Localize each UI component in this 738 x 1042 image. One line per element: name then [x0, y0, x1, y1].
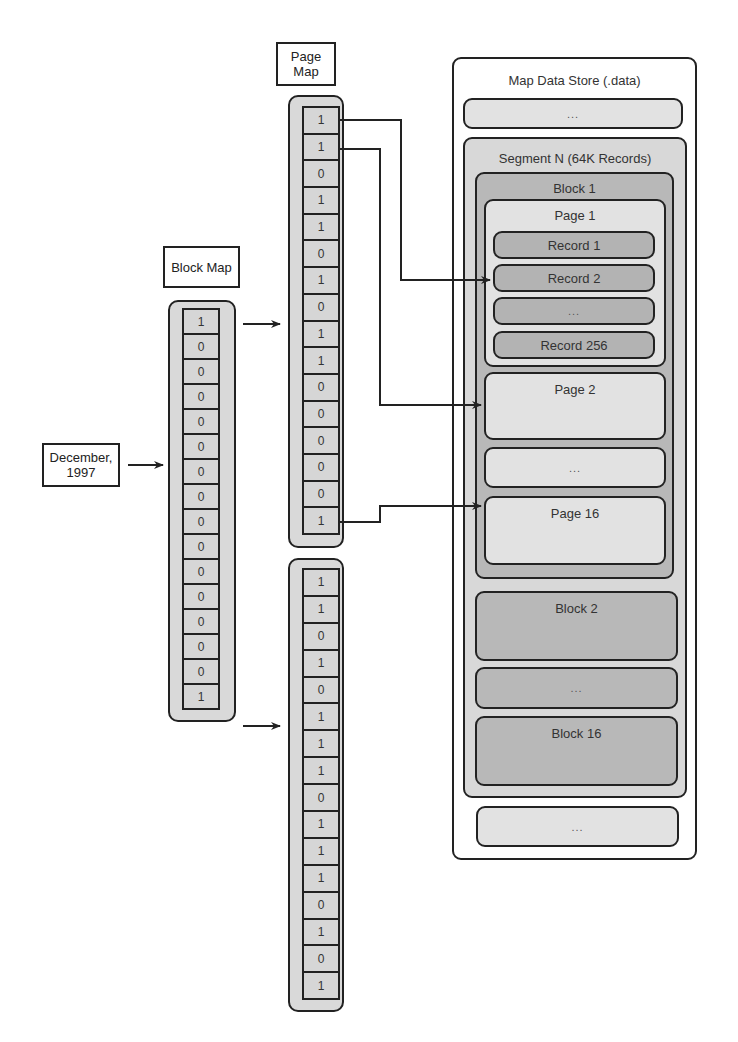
bit-cell: 1: [302, 346, 340, 375]
page-map-label: Page Map: [276, 42, 336, 86]
bit-cell: 0: [182, 458, 220, 485]
bit-cell: 0: [302, 373, 340, 402]
bit-cell: 0: [182, 508, 220, 535]
bit-cell: 0: [302, 400, 340, 429]
date-label: December, 1997: [42, 443, 120, 487]
bit-cell: 1: [302, 186, 340, 215]
bit-cell: 0: [182, 408, 220, 435]
page-1-title: Page 1: [554, 208, 595, 223]
bit-cell: 0: [182, 583, 220, 610]
bit-cell: 0: [302, 891, 340, 920]
bit-cell: 1: [302, 649, 340, 678]
bit-cell: 0: [182, 383, 220, 410]
block-map-label: Block Map: [163, 246, 240, 288]
page-2: Page 2: [484, 372, 666, 440]
bit-cell: 0: [302, 426, 340, 455]
bit-cell: 0: [182, 633, 220, 660]
bit-cell: 1: [302, 506, 340, 535]
bit-cell: 0: [302, 676, 340, 705]
bit-cell: 1: [302, 320, 340, 349]
records-ellipsis: ...: [493, 297, 655, 325]
page-16: Page 16: [484, 496, 666, 565]
data-store-top-ellipsis: ...: [463, 98, 683, 129]
record-1: Record 1: [493, 231, 655, 259]
bit-cell: 1: [302, 133, 340, 162]
bit-cell: 1: [302, 568, 340, 597]
page-map-title: Page Map: [278, 49, 334, 79]
bit-cell: 1: [302, 971, 340, 1000]
bit-cell: 1: [302, 837, 340, 866]
bit-cell: 0: [302, 159, 340, 188]
bit-cell: 0: [182, 533, 220, 560]
block-1-title: Block 1: [553, 181, 596, 196]
page-map-upper-cells: 1101101011000001: [302, 108, 340, 535]
block-16: Block 16: [475, 716, 678, 786]
bit-cell: 0: [302, 239, 340, 268]
block-2: Block 2: [475, 591, 678, 661]
record-256: Record 256: [493, 331, 655, 359]
record-2: Record 2: [493, 264, 655, 292]
bit-cell: 0: [302, 453, 340, 482]
bit-cell: 1: [302, 810, 340, 839]
bit-cell: 1: [302, 213, 340, 242]
page-map-lower-cells: 1101011101110101: [302, 570, 340, 1000]
bit-cell: 0: [302, 622, 340, 651]
bit-cell: 1: [302, 106, 340, 135]
bit-cell: 1: [302, 702, 340, 731]
bit-cell: 0: [302, 944, 340, 973]
bit-cell: 0: [302, 480, 340, 509]
bit-cell: 1: [302, 864, 340, 893]
bit-cell: 0: [182, 558, 220, 585]
pages-ellipsis: ...: [484, 447, 666, 488]
block-map-title: Block Map: [171, 260, 232, 275]
bit-cell: 0: [182, 433, 220, 460]
bit-cell: 1: [302, 266, 340, 295]
bit-cell: 0: [182, 333, 220, 360]
bit-cell: 1: [182, 308, 220, 335]
bit-cell: 0: [182, 608, 220, 635]
block-map-cells: 1000000000000001: [182, 310, 220, 710]
bit-cell: 0: [302, 783, 340, 812]
data-store-title: Map Data Store (.data): [508, 73, 640, 88]
data-store-bottom-ellipsis: ...: [476, 806, 679, 847]
bit-cell: 1: [302, 595, 340, 624]
date-text: December, 1997: [50, 450, 113, 480]
segment-title: Segment N (64K Records): [499, 151, 651, 166]
bit-cell: 0: [182, 658, 220, 685]
bit-cell: 1: [182, 683, 220, 710]
bit-cell: 1: [302, 918, 340, 947]
bit-cell: 1: [302, 756, 340, 785]
blocks-ellipsis: ...: [475, 667, 678, 709]
bit-cell: 0: [182, 358, 220, 385]
bit-cell: 0: [302, 293, 340, 322]
bit-cell: 1: [302, 729, 340, 758]
bit-cell: 0: [182, 483, 220, 510]
